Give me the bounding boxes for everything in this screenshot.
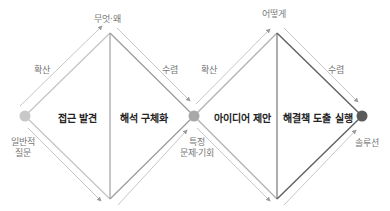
middle-dot [189, 111, 200, 122]
diamond-2-diverge-label: 확산 [201, 65, 217, 76]
phase-discover: 접근 발견 [58, 110, 97, 125]
start-label-line2: 질문 [8, 148, 38, 159]
double-diamond-graphic [0, 0, 390, 211]
start-dot [20, 111, 31, 122]
phase-develop: 아이디어 제안 [214, 110, 271, 125]
diamond-1-converge-label: 수렴 [162, 65, 178, 76]
middle-label-line1: 특정 [172, 137, 222, 148]
phase-deliver: 해결책 도출 실행 [283, 110, 353, 125]
diamond-1 [25, 33, 194, 199]
end-dot [357, 111, 368, 122]
phase-define: 해석 구체화 [120, 110, 168, 125]
diamond-2-top-label: 어떻게 [262, 9, 286, 20]
diamond-1-top-label: 무엇·왜 [94, 14, 121, 25]
start-label-line1: 일반적 [8, 137, 38, 148]
diamond-1-diverge-label: 확산 [34, 65, 50, 76]
diamond-2-converge-label: 수렴 [328, 65, 344, 76]
start-label: 일반적 질문 [8, 137, 38, 159]
middle-label-line2: 문제·기회 [172, 148, 222, 159]
end-label: 솔루션 [355, 138, 379, 149]
middle-label: 특정 문제·기회 [172, 137, 222, 159]
